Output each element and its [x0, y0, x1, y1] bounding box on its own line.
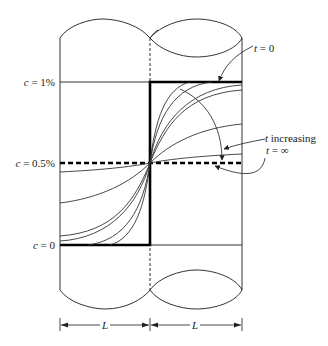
label-t-infinity: t = ∞ [266, 144, 289, 156]
label-t-increasing: t increasing [265, 132, 317, 144]
label-t-0: t = 0 [254, 42, 275, 54]
dim-arrowhead-left-start [61, 323, 68, 328]
right-top-ellipse [150, 19, 242, 57]
left-top-cap [60, 19, 150, 38]
t-infinity-leader-arrow [215, 158, 265, 174]
t-increasing-leader-arrow [224, 139, 265, 149]
label-c-0-5pct: c = 0.5% [15, 157, 55, 169]
dim-label-right-L: L [191, 319, 198, 331]
right-bottom-ellipse [150, 270, 242, 309]
dim-arrowhead-right-start [151, 323, 158, 328]
left-bottom-cap [60, 290, 150, 309]
dim-arrowhead-right-end [234, 323, 241, 328]
label-c-1pct: c = 1% [24, 76, 55, 88]
dim-arrowhead-left-end [142, 323, 149, 328]
diffusion-diagram: c = 1% c = 0.5% c = 0 t = 0 t increasing… [0, 0, 328, 346]
t0-leader-arrow [219, 46, 253, 81]
dim-label-left-L: L [101, 319, 108, 331]
label-c-0: c = 0 [33, 239, 56, 251]
